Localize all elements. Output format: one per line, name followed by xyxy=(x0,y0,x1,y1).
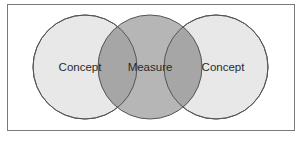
left-concept-label: Concept xyxy=(59,61,103,73)
venn-diagram: Concept Measure Concept xyxy=(0,0,301,141)
right-concept-label: Concept xyxy=(202,61,246,73)
measure-label: Measure xyxy=(128,61,173,73)
